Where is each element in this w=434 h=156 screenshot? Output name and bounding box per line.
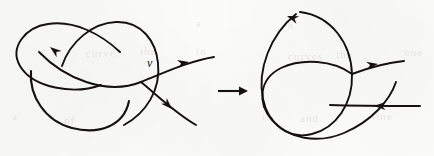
transition-arrow [218,86,248,95]
transition-arrow-head [239,86,248,95]
right-knot-diagram [262,12,420,139]
left-diagram-left-loop [17,23,120,89]
left-knot-diagram: v [17,22,214,130]
figure-root: curvetheincurvestheoneaofisandlineah [0,0,434,156]
left-diagram-right-loop [62,22,158,125]
right-diagram-tilted-ellipse [262,62,396,139]
arrowhead-left-loop [48,44,62,57]
right-diagram-vertical-loop [262,12,352,135]
right-diagram-upper-exit-strand [352,61,404,74]
crossing-label-v: v [147,56,153,70]
diagram-canvas: v [0,0,434,156]
